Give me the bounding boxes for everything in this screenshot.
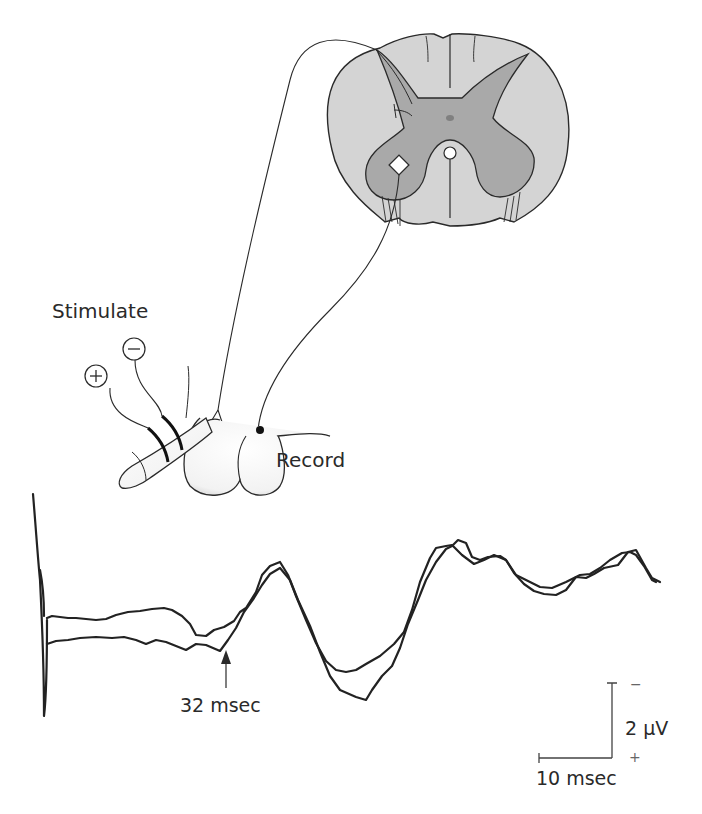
dorsal-gray-commissure-spot	[446, 115, 454, 121]
spinal-cord-cross-section	[327, 34, 568, 226]
stimulation-site-illustration	[110, 360, 330, 495]
figure-drawing	[0, 0, 702, 814]
stimulate-label: Stimulate	[52, 301, 148, 321]
latency-arrow	[221, 650, 231, 688]
negative-polarity-label: −	[630, 677, 642, 691]
central-canal	[444, 147, 456, 159]
anode-electrode	[85, 365, 107, 387]
evoked-potential-figure: Stimulate Record 32 msec 2 µV 10 msec − …	[0, 0, 702, 814]
record-label: Record	[276, 450, 345, 470]
record-electrode-dot	[256, 426, 264, 434]
voltage-scale-bar	[607, 683, 617, 758]
time-scale-bar	[539, 753, 612, 763]
voltage-scale-label: 2 µV	[625, 719, 668, 738]
trace-2	[47, 540, 656, 700]
trace-1	[47, 545, 660, 672]
scale-bars	[539, 683, 617, 763]
time-scale-label: 10 msec	[536, 769, 617, 788]
latency-label: 32 msec	[180, 696, 261, 715]
evoked-potential-traces	[33, 494, 660, 716]
positive-polarity-label: +	[629, 750, 641, 764]
cathode-electrode	[123, 338, 145, 360]
